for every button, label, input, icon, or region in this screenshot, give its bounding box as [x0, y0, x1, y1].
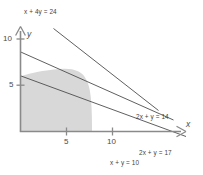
x-axis-label: x — [186, 120, 190, 129]
plot-canvas — [0, 0, 203, 175]
label-x-plus-4y-24: x + 4y = 24 — [24, 9, 57, 15]
label-2x-plus-y-14: 2x + y = 14 — [136, 114, 169, 120]
feasible-region-figure: y x 10 5 5 10 x + 4y = 24 2x + y = 14 2x… — [0, 0, 203, 175]
x-tick-label-5: 5 — [64, 138, 68, 146]
x-tick-label-10: 10 — [107, 138, 116, 146]
label-2x-plus-y-17: 2x + y = 17 — [139, 150, 172, 156]
y-tick-label-5: 5 — [9, 81, 13, 89]
label-x-plus-y-10: x + y = 10 — [110, 160, 139, 166]
y-axis-label: y — [27, 30, 31, 39]
feasible-region-shading — [21, 69, 93, 131]
y-tick-label-10: 10 — [3, 35, 12, 43]
